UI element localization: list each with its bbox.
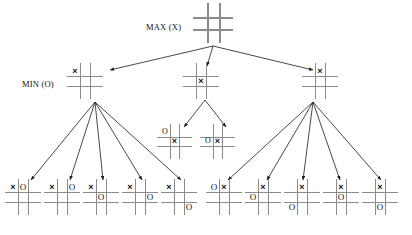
tree-edge	[184, 100, 205, 127]
board-cell-r2c2	[135, 192, 145, 202]
mark-o-r1c3: O	[67, 182, 77, 192]
board-cell-r3c1	[365, 202, 375, 212]
board-cell-r3c3	[219, 29, 230, 40]
board-cell-r2c3	[307, 192, 317, 202]
board-cell-r3c3	[106, 202, 116, 212]
board-cell-r2c3	[90, 76, 100, 86]
board-cell-r2c2	[258, 192, 268, 202]
game-tree-diagram: MAX (X) MIN (O) ×××O×O××O×O×O×O×OO××O×O×…	[0, 0, 412, 235]
board-cell-r3c2	[297, 202, 307, 212]
board-cell-r3c3	[90, 86, 100, 96]
board-cell-r2c3	[385, 192, 395, 202]
board-cell-r3c3	[385, 202, 395, 212]
board-cell-r1c3	[346, 182, 356, 192]
board-cell-r1c3	[206, 66, 216, 76]
mark-x-r1c1: ×	[86, 182, 96, 192]
board-cell-r1c2	[174, 182, 184, 192]
board-cell-r2c2	[297, 192, 307, 202]
board-cell-r3c1	[196, 29, 207, 40]
tree-edge	[303, 102, 313, 180]
tree-edge	[313, 102, 381, 180]
mark-x-r1c1: ×	[125, 182, 135, 192]
board-cell-r1c3	[28, 182, 38, 192]
tic-tac-toe-board: ×O	[287, 182, 317, 212]
board-node-min-right: ×	[305, 66, 335, 96]
board-cell-r3c2	[170, 146, 180, 156]
board-cell-r1c3	[268, 182, 278, 192]
board-cell-r2c2	[80, 76, 90, 86]
board-cell-r3c2	[207, 29, 218, 40]
board-cell-r1c2	[207, 6, 218, 17]
board-cell-r1c3	[184, 182, 194, 192]
board-cell-r2c1	[209, 192, 219, 202]
board-node-root	[196, 6, 230, 40]
board-cell-r2c1	[287, 192, 297, 202]
tree-edge	[31, 102, 95, 180]
board-cell-r3c3	[268, 202, 278, 212]
board-cell-r1c3	[219, 6, 230, 17]
mark-x-r1c2: ×	[219, 182, 229, 192]
mark-x-r1c2: ×	[315, 66, 325, 76]
board-cell-r1c3	[307, 182, 317, 192]
board-cell-r1c1	[326, 182, 336, 192]
board-cell-r3c2	[196, 86, 206, 96]
board-node-leaf-2: ×O	[47, 182, 77, 212]
board-cell-r2c2	[375, 192, 385, 202]
mark-o-r2c2: O	[96, 192, 106, 202]
tree-edge	[267, 102, 313, 180]
board-cell-r3c1	[203, 146, 213, 156]
board-cell-r3c2	[80, 86, 90, 96]
board-cell-r2c1	[47, 192, 57, 202]
board-cell-r2c3	[28, 192, 38, 202]
mark-x-r1c2: ×	[297, 182, 307, 192]
mark-o-r2c1: O	[203, 137, 213, 147]
board-cell-r1c3	[106, 182, 116, 192]
min-player-label: MIN (O)	[22, 79, 54, 89]
mark-x-r1c1: ×	[8, 182, 18, 192]
board-cell-r2c2	[18, 192, 28, 202]
board-node-leaf-9: ×O	[326, 182, 356, 212]
board-cell-r3c3	[222, 146, 232, 156]
board-cell-r1c1	[305, 66, 315, 76]
mark-o-r2c1: O	[248, 192, 258, 202]
board-cell-r3c2	[219, 202, 229, 212]
board-cell-r2c1	[164, 192, 174, 202]
board-cell-r2c3	[206, 76, 216, 86]
board-cell-r3c1	[164, 202, 174, 212]
tic-tac-toe-board: ×O	[248, 182, 278, 212]
board-cell-r1c3	[179, 127, 189, 137]
board-cell-r1c2	[80, 66, 90, 76]
board-cell-r3c3	[179, 146, 189, 156]
board-cell-r3c3	[145, 202, 155, 212]
board-node-mid-child-2: O×	[203, 127, 232, 156]
board-cell-r1c1	[365, 182, 375, 192]
board-cell-r2c1	[160, 137, 170, 147]
board-cell-r1c1	[248, 182, 258, 192]
board-node-leaf-7: ×O	[248, 182, 278, 212]
tic-tac-toe-board: ×O	[326, 182, 356, 212]
board-cell-r3c1	[326, 202, 336, 212]
mark-x-r1c2: ×	[258, 182, 268, 192]
tree-edge	[70, 102, 95, 180]
mark-x-r2c2: ×	[213, 137, 223, 147]
board-cell-r2c2	[219, 192, 229, 202]
board-cell-r2c2	[57, 192, 67, 202]
board-cell-r1c3	[229, 182, 239, 192]
tree-edge	[95, 102, 103, 180]
board-cell-r3c3	[346, 202, 356, 212]
board-cell-r3c3	[325, 86, 335, 96]
tic-tac-toe-board: ×	[305, 66, 335, 96]
mark-o-r3c2: O	[375, 202, 385, 212]
mark-o-r2c2: O	[336, 192, 346, 202]
board-node-leaf-6: O×	[209, 182, 239, 212]
board-cell-r2c1	[305, 76, 315, 86]
board-cell-r2c1	[8, 192, 18, 202]
tic-tac-toe-board: ×	[186, 66, 216, 96]
board-cell-r2c1	[186, 76, 196, 86]
board-cell-r2c3	[325, 76, 335, 86]
board-node-leaf-3: ×O	[86, 182, 116, 212]
board-cell-r3c3	[67, 202, 77, 212]
board-cell-r2c2	[315, 76, 325, 86]
board-cell-r2c1	[365, 192, 375, 202]
board-cell-r3c2	[96, 202, 106, 212]
